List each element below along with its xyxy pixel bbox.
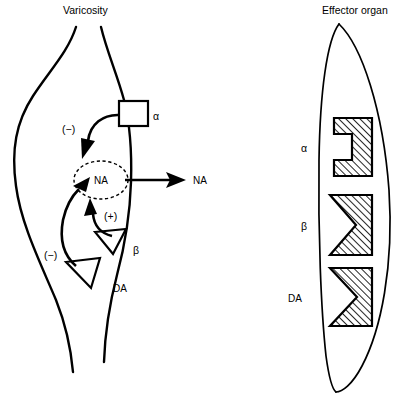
varicosity-alpha-sign: (−) <box>62 123 75 135</box>
varicosity-alpha-feedback-arrow <box>88 115 120 141</box>
varicosity-alpha-feedback-arrowhead <box>81 138 95 159</box>
varicosity-da-feedback-arrowhead <box>73 177 90 192</box>
effector-alpha-receptor <box>334 118 372 176</box>
varicosity-wall-left <box>14 27 76 372</box>
varicosity-wall-right <box>101 27 131 362</box>
varicosity-beta-receptor-triangle <box>95 229 126 254</box>
varicosity-da-sign: (−) <box>44 249 57 261</box>
effector-organ-outline-left <box>319 24 339 392</box>
effector-da-hatch-fill <box>330 268 372 326</box>
effector-organ-group: Effector organ α β DA <box>288 4 390 392</box>
varicosity-beta-label: β <box>133 244 139 256</box>
varicosity-alpha-receptor-square <box>119 101 148 126</box>
na-vesicle-label: NA <box>94 175 108 186</box>
diagram-canvas: Varicosity α (−) NA NA β (+) <box>0 0 410 402</box>
figure-svg: Varicosity α (−) NA NA β (+) <box>0 0 410 402</box>
effector-beta-hatch-fill <box>330 195 372 255</box>
effector-da-label: DA <box>288 293 302 304</box>
na-release-label: NA <box>193 175 207 186</box>
varicosity-alpha-label: α <box>153 110 159 122</box>
effector-da-receptor <box>330 268 372 326</box>
varicosity-da-feedback-arrow <box>62 189 79 266</box>
varicosity-group: Varicosity α (−) NA NA β (+) <box>14 4 207 372</box>
varicosity-title: Varicosity <box>63 4 108 16</box>
effector-organ-title: Effector organ <box>322 4 388 16</box>
effector-beta-label: β <box>301 220 307 232</box>
varicosity-beta-feedback-arrowhead <box>84 198 97 216</box>
varicosity-beta-sign: (+) <box>104 210 117 222</box>
effector-alpha-label: α <box>301 142 307 154</box>
varicosity-da-label: DA <box>113 283 127 294</box>
effector-beta-receptor <box>330 195 372 255</box>
